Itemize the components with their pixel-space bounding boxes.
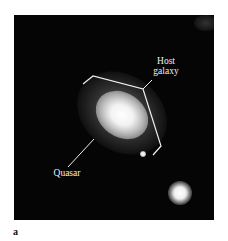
annotation-lines <box>0 0 228 241</box>
host-galaxy-bracket <box>83 76 161 155</box>
quasar-leader <box>68 139 94 167</box>
panel-label: a <box>13 226 18 237</box>
host-galaxy-leader <box>143 80 152 89</box>
host-galaxy-label: Host galaxy <box>148 56 184 76</box>
host-label-line2: galaxy <box>148 66 184 76</box>
host-label-line1: Host <box>148 56 184 66</box>
quasar-label: Quasar <box>47 168 87 178</box>
